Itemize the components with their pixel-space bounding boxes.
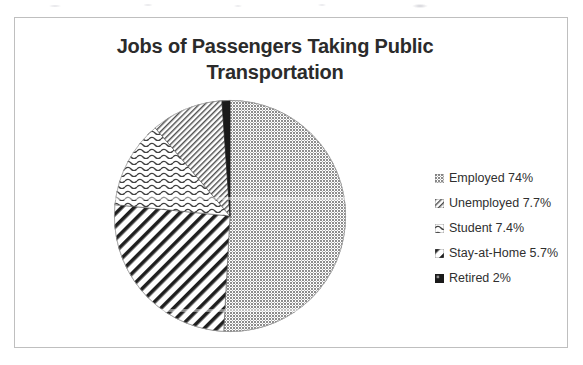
pie-chart <box>113 99 347 333</box>
dots-gray-swatch <box>435 174 444 183</box>
legend-item-unemployed[interactable]: Unemployed 7.7% <box>435 195 565 211</box>
pie-chart-svg <box>113 99 347 333</box>
fine-diagonal-swatch <box>435 199 444 208</box>
chart-title-line-2: Transportation <box>206 61 343 83</box>
legend-label-student: Student 7.4% <box>449 221 524 235</box>
legend-item-stay-at-home[interactable]: Stay-at-Home 5.7% <box>435 245 565 261</box>
legend-label-retired: Retired 2% <box>449 271 511 285</box>
pie-slice-employed <box>224 100 347 332</box>
chart-title: Jobs of Passengers Taking Public Transpo… <box>75 33 475 85</box>
solid-black-swatch <box>435 274 444 283</box>
legend-label-stay-at-home: Stay-at-Home 5.7% <box>449 246 558 260</box>
legend-label-unemployed: Unemployed 7.7% <box>449 196 551 210</box>
legend-item-student[interactable]: Student 7.4% <box>435 220 565 236</box>
legend-item-retired[interactable]: Retired 2% <box>435 270 565 286</box>
wavy-lines-swatch <box>435 224 444 233</box>
chart-legend: Employed 74% Unemployed 7.7% Student 7.4… <box>435 170 565 295</box>
diagonal-stripes-swatch <box>435 249 444 258</box>
pie-slice-stay-at-home <box>114 205 230 332</box>
chart-title-line-1: Jobs of Passengers Taking Public <box>117 35 434 57</box>
legend-item-employed[interactable]: Employed 74% <box>435 170 565 186</box>
legend-label-employed: Employed 74% <box>449 171 533 185</box>
chart-frame: Jobs of Passengers Taking Public Transpo… <box>14 17 568 348</box>
scan-artifact-top <box>0 0 583 13</box>
